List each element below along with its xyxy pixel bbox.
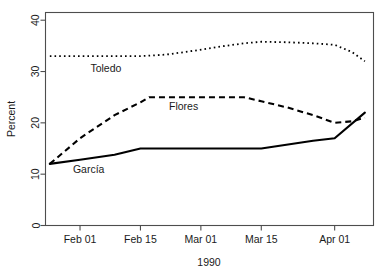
- x-tick-label: Mar 15: [245, 233, 278, 245]
- y-tick-label: 10: [30, 168, 42, 180]
- series-line-toledo: [50, 42, 365, 62]
- y-tick-label: 20: [30, 117, 42, 129]
- series-line-flores: [50, 97, 365, 164]
- x-axis-title: 1990: [197, 256, 221, 268]
- x-tick-label: Feb 01: [64, 233, 97, 245]
- chart-figure: 010203040 Feb 01Feb 15Mar 01Mar 15Apr 01…: [0, 0, 388, 276]
- y-axis-title: Percent: [5, 101, 17, 137]
- x-tick-label: Apr 01: [319, 233, 350, 245]
- plot-frame: [46, 13, 374, 226]
- series-label-toledo: Toledo: [90, 62, 121, 74]
- y-tick-label: 30: [30, 66, 42, 78]
- y-axis-tick-labels: 010203040: [30, 14, 42, 228]
- line-chart-canvas: 010203040 Feb 01Feb 15Mar 01Mar 15Apr 01…: [0, 0, 388, 276]
- x-tick-label: Feb 15: [124, 233, 157, 245]
- y-tick-label: 40: [30, 14, 42, 26]
- y-tick-label: 0: [30, 222, 42, 228]
- series-label-garca: García: [73, 163, 105, 175]
- series-label-flores: Flores: [169, 100, 198, 112]
- x-axis-tick-labels: Feb 01Feb 15Mar 01Mar 15Apr 01: [64, 233, 351, 245]
- x-axis-ticks: [80, 226, 335, 231]
- x-tick-label: Mar 01: [185, 233, 218, 245]
- data-series-group: [50, 42, 365, 164]
- series-line-garca: [50, 113, 365, 164]
